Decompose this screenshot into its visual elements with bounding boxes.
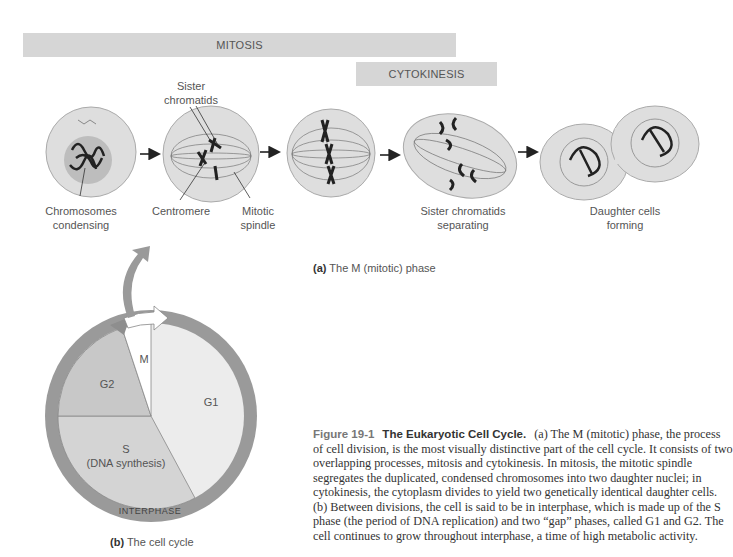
- figure-title: The Eukaryotic Cell Cycle.: [382, 428, 526, 440]
- caption-a-marker: (a): [313, 262, 326, 274]
- label-separating-line1: Sister chromatids: [408, 204, 518, 218]
- segment-g2-label: G2: [92, 377, 122, 391]
- segment-m-label: M: [134, 352, 154, 366]
- caption-b-marker: (b): [110, 536, 124, 548]
- segment-g1-label: G1: [196, 395, 226, 409]
- label-chromosomes-condensing: Chromosomes condensing: [36, 204, 126, 232]
- figure-number: Figure 19-1: [313, 428, 374, 440]
- label-centromere: Centromere: [146, 204, 216, 218]
- segment-s-label: S (DNA synthesis): [76, 442, 176, 470]
- label-mitotic-spindle: Mitotic spindle: [228, 204, 288, 232]
- label-daughter-line2: forming: [570, 218, 680, 232]
- figure-legend: Figure 19-1The Eukaryotic Cell Cycle.(a)…: [313, 427, 733, 543]
- figure-body: (a) The M (mitotic) phase, the process o…: [313, 427, 733, 543]
- label-centromere-text: Centromere: [146, 204, 216, 218]
- label-spindle-line2: spindle: [228, 218, 288, 232]
- caption-b-text: The cell cycle: [124, 536, 194, 548]
- cell-metaphase: [287, 109, 375, 197]
- label-chromosomes-line1: Chromosomes: [36, 204, 126, 218]
- label-separating-line2: separating: [408, 218, 518, 232]
- segment-s-line2: (DNA synthesis): [76, 456, 176, 470]
- caption-panel-a: (a) The M (mitotic) phase: [313, 262, 436, 274]
- label-sister-chromatids-separating: Sister chromatids separating: [408, 204, 518, 232]
- label-sister-chromatids: Sister chromatids: [146, 79, 236, 107]
- label-spindle-line1: Mitotic: [228, 204, 288, 218]
- label-daughter-cells-forming: Daughter cells forming: [570, 204, 680, 232]
- caption-a-text: The M (mitotic) phase: [326, 262, 435, 274]
- interphase-ring-label: INTERPHASE: [110, 504, 190, 518]
- cell-cytokinesis: [540, 106, 699, 200]
- caption-panel-b: (b) The cell cycle: [110, 536, 194, 548]
- label-daughter-line1: Daughter cells: [570, 204, 680, 218]
- label-sister-line2: chromatids: [146, 93, 236, 107]
- segment-s-line1: S: [76, 442, 176, 456]
- cell-prophase: [46, 107, 136, 197]
- cell-anaphase: [392, 100, 527, 212]
- cell-cycle-wheel: [45, 246, 257, 522]
- label-sister-line1: Sister: [146, 79, 236, 93]
- label-chromosomes-line2: condensing: [36, 218, 126, 232]
- cell-prometaphase: [163, 106, 259, 202]
